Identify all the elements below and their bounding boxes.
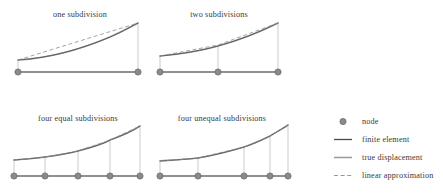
panel-one-subdivision: one subdivision — [15, 10, 141, 75]
node-marker — [135, 69, 141, 75]
finite-element-curve — [160, 125, 288, 161]
node-marker — [241, 173, 247, 179]
node-marker — [137, 173, 143, 179]
legend-item-node: node — [340, 117, 379, 126]
panel-four-equal-subdivisions: four equal subdivisions — [11, 114, 143, 179]
node-marker — [75, 173, 81, 179]
figure-container: one subdivisiontwo subdivisionsfour equa… — [0, 0, 443, 196]
node-marker — [275, 69, 281, 75]
legend-label-linear-approximation: linear approximation — [362, 171, 433, 180]
finite-element-curve — [160, 23, 278, 56]
node-marker — [157, 173, 163, 179]
panel-two-subdivisions: two subdivisions — [157, 10, 281, 75]
node-marker — [215, 69, 221, 75]
linear-approximation-line — [18, 23, 138, 60]
node-marker — [267, 173, 273, 179]
finite-element-curve — [14, 126, 140, 160]
legend-label-finite-element: finite element — [362, 135, 410, 144]
legend-label-node: node — [362, 117, 379, 126]
legend-node-icon — [340, 118, 346, 124]
subdivision-diagram: one subdivisiontwo subdivisionsfour equa… — [0, 0, 443, 196]
panel-title-one-subdivision: one subdivision — [53, 10, 107, 19]
node-marker — [195, 173, 201, 179]
true-displacement-curve — [160, 23, 278, 56]
linear-approximation-line — [160, 23, 278, 56]
node-marker — [15, 69, 21, 75]
true-displacement-curve — [160, 125, 288, 161]
legend-item-true-displacement: true displacement — [334, 153, 423, 162]
node-marker — [107, 173, 113, 179]
true-displacement-curve — [14, 126, 140, 160]
panel-title-four-equal-subdivisions: four equal subdivisions — [38, 114, 118, 123]
legend-item-finite-element: finite element — [334, 135, 410, 144]
linear-approximation-line — [14, 126, 140, 160]
node-marker — [42, 173, 48, 179]
node-marker — [157, 69, 163, 75]
linear-approximation-line — [160, 125, 288, 161]
panel-title-two-subdivisions: two subdivisions — [190, 10, 248, 19]
node-marker — [285, 173, 291, 179]
legend-item-linear-approximation: linear approximation — [334, 171, 433, 180]
legend: nodefinite elementtrue displacementlinea… — [334, 117, 433, 180]
panel-four-unequal-subdivisions: four unequal subdivisions — [157, 114, 291, 179]
node-marker — [11, 173, 17, 179]
panel-title-four-unequal-subdivisions: four unequal subdivisions — [178, 114, 266, 123]
legend-label-true-displacement: true displacement — [362, 153, 423, 162]
